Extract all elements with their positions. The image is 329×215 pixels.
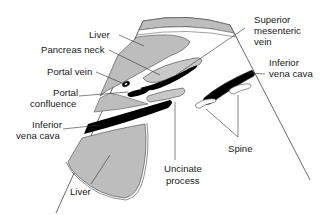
label-smv-1: Superior bbox=[254, 14, 290, 25]
label-ivc-right-1: Inferior bbox=[269, 57, 299, 68]
label-smv-3: vein bbox=[254, 36, 272, 47]
label-liver-top: Liver bbox=[89, 29, 110, 40]
uncinate-process bbox=[147, 88, 185, 102]
label-ivc-left-2: vena cava bbox=[16, 130, 60, 141]
label-pancreas-neck: Pancreas neck bbox=[41, 44, 104, 55]
portal-confluence bbox=[128, 89, 151, 97]
spine-left bbox=[196, 99, 217, 108]
label-ivc-left-1: Inferior bbox=[32, 119, 62, 130]
label-ivc-right-2: vena cava bbox=[269, 68, 313, 79]
label-liver-bottom: Liver bbox=[70, 186, 91, 197]
label-spine: Spine bbox=[228, 143, 253, 154]
label-uncinate-2: process bbox=[166, 175, 200, 186]
label-uncinate-1: Uncinate bbox=[164, 163, 202, 174]
label-portal-confluence-1: Portal bbox=[53, 87, 78, 98]
label-portal-confluence-2: confluence bbox=[30, 98, 76, 109]
label-portal-vein: Portal vein bbox=[47, 66, 92, 77]
label-smv-2: mesenteric bbox=[254, 25, 301, 36]
